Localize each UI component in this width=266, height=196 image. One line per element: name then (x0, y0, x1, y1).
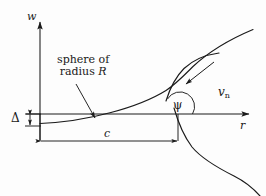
meniscus-sphere-diagram: w r sphere of radius R vn ψ Δ c (0, 0, 266, 196)
w-axis-label: w (27, 11, 36, 23)
angle-psi-label: ψ (173, 99, 182, 112)
normal-velocity-arrow (186, 62, 214, 84)
sphere-lower-branch (174, 108, 260, 196)
sphere-note-line-2: radius R (57, 66, 109, 78)
r-axis-label: r (240, 120, 245, 132)
sphere-note: sphere of radius R (57, 54, 109, 79)
delta-label: Δ (11, 112, 20, 125)
velocity-symbol: v (218, 85, 225, 99)
sphere-note-radius-word: radius (60, 65, 99, 78)
sphere-note-leader-line (76, 84, 95, 118)
chord-label: c (104, 128, 110, 140)
sphere-radius-symbol: R (98, 65, 106, 78)
normal-velocity-label: vn (218, 86, 230, 101)
sphere-surface-arc (166, 53, 219, 101)
velocity-subscript: n (225, 91, 230, 100)
